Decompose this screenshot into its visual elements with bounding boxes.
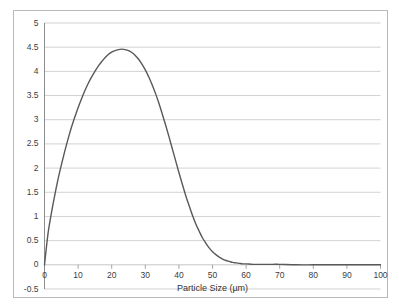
x-tick-label: 40 <box>164 271 194 280</box>
x-tick-label: 70 <box>265 271 295 280</box>
y-tick-label: 3 <box>13 115 39 124</box>
x-tick-label: 20 <box>97 271 127 280</box>
gridlines <box>45 23 381 289</box>
distribution-curve <box>45 49 381 265</box>
y-tick-label: 1.5 <box>13 188 39 197</box>
x-tick-label: 10 <box>63 271 93 280</box>
x-tick-label: 50 <box>198 271 228 280</box>
y-tick-label: 2.5 <box>13 139 39 148</box>
x-tick-label: 90 <box>332 271 362 280</box>
x-tick-label: 100 <box>366 271 396 280</box>
particle-size-distribution-chart: -0.500.511.522.533.544.55 01020304050607… <box>0 0 399 307</box>
y-tick-label: 0.5 <box>13 236 39 245</box>
x-tick-label: 60 <box>231 271 261 280</box>
y-tick-label: 2 <box>13 164 39 173</box>
x-tick-label: 80 <box>298 271 328 280</box>
y-tick-label: 4.5 <box>13 43 39 52</box>
x-tick-label: 0 <box>30 271 60 280</box>
plot-area <box>0 0 399 307</box>
y-tick-label: 3.5 <box>13 91 39 100</box>
y-tick-label: 5 <box>13 19 39 28</box>
y-tick-label: 0 <box>13 260 39 269</box>
y-tick-label: 4 <box>13 67 39 76</box>
x-axis-title: Particle Size (µm) <box>30 284 396 293</box>
x-tick-label: 30 <box>130 271 160 280</box>
y-tick-label: 1 <box>13 212 39 221</box>
